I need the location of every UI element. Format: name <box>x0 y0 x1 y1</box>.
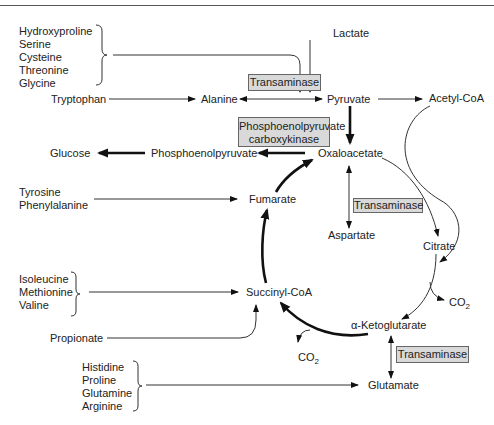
label-methionine: Methionine <box>19 286 73 299</box>
label-proline: Proline <box>82 374 132 387</box>
node-oxaloacetate: Oxaloacetate <box>318 147 383 160</box>
node-succinyl-coa: Succinyl-CoA <box>246 286 312 299</box>
node-lactate: Lactate <box>333 27 369 40</box>
node-acetyl-coa: Acetyl-CoA <box>429 92 484 105</box>
node-pyruvate: Pyruvate <box>327 93 370 106</box>
enzyme-transaminase-aspartate: Transaminase <box>353 198 423 213</box>
node-co2-akg: CO2 <box>298 351 319 364</box>
pepck-line-2: carboxykinase <box>239 133 329 146</box>
node-fumarate: Fumarate <box>249 193 296 206</box>
label-tyrosine: Tyrosine <box>19 186 88 199</box>
enzyme-transaminase-glutamate: Transaminase <box>396 346 469 363</box>
node-citrate: Citrate <box>423 240 455 253</box>
node-glucose: Glucose <box>50 147 90 160</box>
label-glycine: Glycine <box>19 77 92 90</box>
label-cysteine: Cysteine <box>19 51 92 64</box>
amino-acid-group-4: Histidine Proline Glutamine Arginine <box>82 361 132 413</box>
node-phosphoenolpyruvate: Phosphoenolpyruvate <box>151 147 257 160</box>
amino-acid-group-2: Tyrosine Phenylalanine <box>19 186 88 212</box>
label-isoleucine: Isoleucine <box>19 273 73 286</box>
label-hydroxyproline: Hydroxyproline <box>19 25 92 38</box>
pepck-line-1: Phosphoenolpyruvate <box>239 120 329 133</box>
label-serine: Serine <box>19 38 92 51</box>
label-threonine: Threonine <box>19 64 92 77</box>
amino-acid-group-3: Isoleucine Methionine Valine <box>19 273 73 312</box>
node-alpha-ketoglutarate: α-Ketoglutarate <box>351 319 426 332</box>
label-valine: Valine <box>19 299 73 312</box>
label-phenylalanine: Phenylalanine <box>19 199 88 212</box>
node-glutamate: Glutamate <box>368 379 419 392</box>
node-aspartate: Aspartate <box>328 229 375 242</box>
label-histidine: Histidine <box>82 361 132 374</box>
amino-acid-group-1: Hydroxyproline Serine Cysteine Threonine… <box>19 25 92 90</box>
label-arginine: Arginine <box>82 400 132 413</box>
enzyme-pepck: Phosphoenolpyruvate carboxykinase <box>238 117 330 147</box>
node-propionate: Propionate <box>50 332 103 345</box>
node-alanine: Alanine <box>201 93 238 106</box>
enzyme-transaminase-alanine: Transaminase <box>248 74 321 91</box>
node-tryptophan: Tryptophan <box>51 93 106 106</box>
label-glutamine: Glutamine <box>82 387 132 400</box>
node-co2-citrate: CO2 <box>449 296 470 309</box>
